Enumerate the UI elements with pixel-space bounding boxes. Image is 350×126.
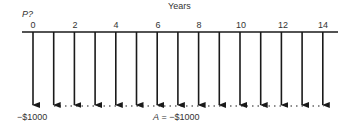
tick-label-8: 8 (189, 20, 209, 30)
present-value-label: P? (22, 9, 33, 19)
tick-label-4: 4 (106, 20, 126, 30)
annuity-value: = −$1000 (159, 112, 200, 122)
axis-title: Years (168, 1, 191, 11)
tick-label-10: 10 (231, 20, 251, 30)
tick-label-14: 14 (313, 20, 333, 30)
tick-label-12: 12 (273, 20, 293, 30)
cash-flow-diagram (0, 0, 350, 126)
cashflow-arrows (33, 32, 323, 105)
tick-label-0: 0 (23, 20, 43, 30)
tick-label-6: 6 (148, 20, 168, 30)
annuity-label: A = −$1000 (153, 112, 200, 122)
initial-cashflow-label: −$1000 (17, 112, 47, 122)
tick-label-2: 2 (65, 20, 85, 30)
